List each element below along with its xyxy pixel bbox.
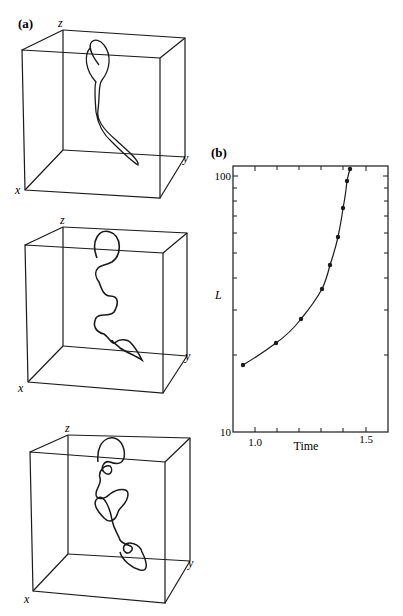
z-axis-label: z <box>59 213 65 227</box>
curve-1 <box>86 40 138 165</box>
data-line <box>243 169 350 365</box>
x-axis-label: x <box>17 381 24 395</box>
data-point <box>274 341 278 345</box>
data-point <box>241 363 245 367</box>
y-ticks <box>233 176 388 355</box>
box-1: z x y <box>14 16 189 198</box>
figure: (a) z x y <box>0 0 403 616</box>
panel-b-label: (b) <box>211 145 227 160</box>
data-point <box>320 287 324 291</box>
curve-2 <box>94 231 142 360</box>
y-axis-title: L <box>214 288 222 302</box>
y-tick-100: 100 <box>215 170 232 182</box>
data-markers <box>241 167 352 367</box>
data-point <box>341 206 345 210</box>
x-axis-title: Time <box>294 439 319 453</box>
y-axis-label: y <box>187 556 194 570</box>
box-2: z x y <box>17 213 191 395</box>
data-point <box>345 179 349 183</box>
data-point <box>348 167 352 171</box>
x-ticks <box>255 166 366 432</box>
z-axis-label: z <box>64 421 70 435</box>
panel-a-label: (a) <box>18 16 33 31</box>
x-tick-1-0: 1.0 <box>248 436 262 448</box>
x-tick-1-5: 1.5 <box>359 433 373 445</box>
x-axis-label: x <box>14 183 21 197</box>
y-axis-label: y <box>184 349 191 363</box>
y-tick-10: 10 <box>220 426 232 438</box>
data-point <box>336 235 340 239</box>
y-axis-label: y <box>182 151 189 165</box>
data-point <box>328 263 332 267</box>
plot-frame <box>233 166 388 432</box>
z-axis-label: z <box>57 16 63 30</box>
x-axis-label: x <box>23 592 30 606</box>
box-3: z x y <box>23 421 194 606</box>
chart: 100 10 1.0 1.5 Time L <box>214 166 388 453</box>
data-point <box>299 317 303 321</box>
